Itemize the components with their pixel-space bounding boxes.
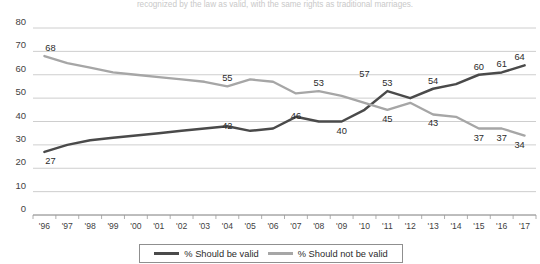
x-axis-label-07: '07 [290, 221, 301, 231]
x-axis-label-03: '03 [199, 221, 210, 231]
x-axis-label-06: '06 [267, 221, 278, 231]
data-label-valid-17: 64 [514, 52, 524, 62]
data-label-not-valid-15: 37 [474, 133, 484, 143]
x-axis-label-98: '98 [85, 221, 96, 231]
chart-legend: % Should be valid % Should not be valid [139, 244, 403, 263]
legend-label-should-be-valid: % Should be valid [184, 249, 258, 259]
legend-swatch-not-valid-icon [268, 252, 293, 255]
y-axis-label-80: 80 [15, 16, 26, 27]
x-axis-label-05: '05 [245, 221, 256, 231]
line-chart-plot: 01020304050607080'96'97'98'99'00'01'02'0… [0, 0, 540, 264]
x-axis-label-17: '17 [519, 221, 530, 231]
data-label-not-valid-08: 53 [314, 78, 324, 88]
x-axis-label-96: '96 [39, 221, 50, 231]
data-label-valid-07: 46 [291, 111, 301, 121]
data-label-valid-96: 27 [45, 156, 55, 166]
x-axis-label-04: '04 [222, 221, 233, 231]
data-label-not-valid-10: 57 [359, 69, 369, 79]
x-axis-label-09: '09 [336, 221, 347, 231]
x-axis-label-11: '11 [382, 221, 393, 231]
x-axis-label-02: '02 [176, 221, 187, 231]
series-line-should-be-valid [44, 65, 524, 151]
data-label-not-valid-16: 37 [497, 133, 507, 143]
x-axis-label-08: '08 [313, 221, 324, 231]
x-axis-label-99: '99 [107, 221, 118, 231]
x-axis-label-12: '12 [405, 221, 416, 231]
x-axis-label-14: '14 [450, 221, 461, 231]
legend-label-should-not-be-valid: % Should not be valid [298, 249, 388, 259]
data-label-not-valid-96: 68 [45, 43, 55, 53]
x-axis-label-13: '13 [428, 221, 439, 231]
data-label-valid-11: 53 [382, 78, 392, 88]
x-axis-label-10: '10 [359, 221, 370, 231]
y-axis-label-60: 60 [15, 63, 26, 74]
data-label-valid-04: 42 [222, 121, 232, 131]
y-axis-label-40: 40 [15, 110, 26, 121]
x-axis-label-00: '00 [130, 221, 141, 231]
y-axis-label-10: 10 [15, 180, 26, 191]
y-axis-label-70: 70 [15, 39, 26, 50]
legend-swatch-valid-icon [154, 252, 179, 255]
y-axis-label-0: 0 [21, 203, 26, 214]
data-label-valid-13: 54 [428, 76, 438, 86]
x-axis-label-16: '16 [496, 221, 507, 231]
chart-container: recognized by the law as valid, with the… [0, 0, 540, 264]
x-axis-label-01: '01 [153, 221, 164, 231]
data-label-not-valid-13: 43 [428, 118, 438, 128]
data-label-not-valid-04: 55 [222, 73, 232, 83]
data-label-valid-16: 61 [497, 59, 507, 69]
data-label-not-valid-11: 45 [382, 114, 392, 124]
x-axis-label-15: '15 [473, 221, 484, 231]
y-axis-label-20: 20 [15, 156, 26, 167]
data-label-not-valid-17: 34 [514, 140, 524, 150]
x-axis-label-97: '97 [62, 221, 73, 231]
y-axis-label-30: 30 [15, 133, 26, 144]
data-label-valid-09: 40 [336, 126, 346, 136]
y-axis-label-50: 50 [15, 86, 26, 97]
data-label-valid-15: 60 [474, 62, 484, 72]
legend-item-should-not-be-valid[interactable]: % Should not be valid [268, 249, 388, 259]
legend-item-should-be-valid[interactable]: % Should be valid [154, 249, 258, 259]
